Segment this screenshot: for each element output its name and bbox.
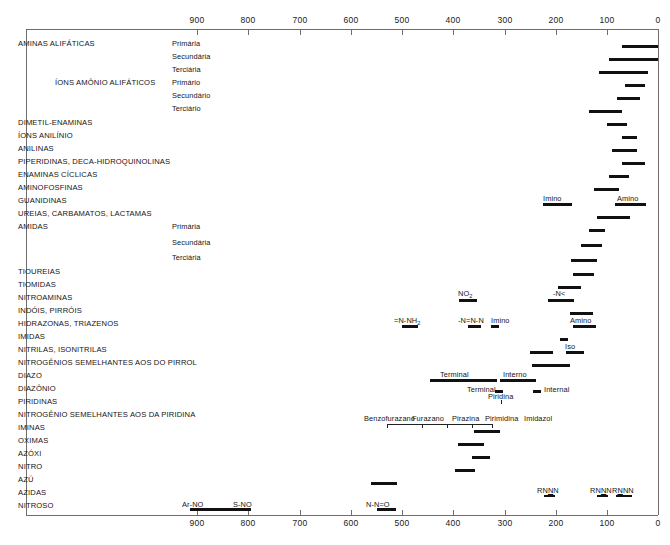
row-label-diazonio: DIAZÔNIO — [18, 384, 56, 393]
row-label-aminas-alifaticas: AMINAS ALIFÁTICAS — [18, 39, 95, 48]
row-label-nitrilas-isonitrilas: NITRILAS, ISONITRILAS — [18, 345, 107, 354]
bottom-axis-label-100: 100 — [587, 518, 627, 528]
annot-furazano: Furazano — [412, 414, 444, 423]
top-axis-label-100: 100 — [587, 15, 627, 25]
piridina-like-bracket — [387, 424, 493, 428]
row-label-iminas: IMINAS — [18, 423, 45, 432]
row-label-guanidinas: GUANIDINAS — [18, 196, 67, 205]
bottom-axis-label-600: 600 — [331, 518, 371, 528]
bar-dimetil-enaminas — [607, 123, 627, 126]
sub-label-amonio-terciario: Terciário — [172, 104, 201, 113]
bottom-axis-label-0: 0 — [638, 518, 670, 528]
sub-label-amonio-secundario: Secundário — [172, 91, 210, 100]
row-label-nitro: NITRO — [18, 462, 42, 471]
bracket-tick-furazano — [422, 424, 423, 428]
row-label-ions-amonio-alifaticos: ÍONS AMÔNIO ALIFÁTICOS — [55, 78, 155, 87]
annot-diazonio-internal: Internal — [544, 385, 569, 394]
row-label-dimetil-enaminas: DIMETIL-ENAMINAS — [18, 118, 93, 127]
bar-amonio-terciario — [589, 110, 622, 113]
top-axis-label-300: 300 — [485, 15, 525, 25]
top-axis-tick-200 — [556, 30, 557, 35]
annot-guanidinas-imino: Imino — [543, 194, 562, 203]
annot-nitroaminas-no2: NO2 — [458, 289, 473, 299]
sub-label-amina-terciaria: Terciária — [172, 65, 201, 74]
annot-piridina: Piridina — [488, 392, 513, 401]
bottom-axis-label-700: 700 — [280, 518, 320, 528]
bottom-axis-tick-400 — [453, 510, 454, 515]
top-axis-label-700: 700 — [280, 15, 320, 25]
top-axis-label-800: 800 — [228, 15, 268, 25]
top-axis-label-900: 900 — [177, 15, 217, 25]
bar-diazo-interno — [500, 379, 536, 382]
sub-label-amina-primaria: Primária — [172, 39, 200, 48]
bar-azidas-2 — [597, 495, 608, 497]
top-axis-tick-600 — [351, 30, 352, 35]
bar-hidrazonas-imino — [491, 325, 499, 328]
top-axis-tick-400 — [453, 30, 454, 35]
annot-hidrazonas-imino: Imino — [491, 316, 510, 325]
bar-iminas — [474, 430, 500, 433]
bottom-axis-tick-600 — [351, 510, 352, 515]
bar-nitro — [455, 469, 475, 472]
bottom-axis-tick-200 — [556, 510, 557, 515]
bar-amida-secundaria — [581, 244, 602, 247]
annot-nitroso-ar-no: Ar-NO — [182, 500, 203, 509]
bottom-axis-label-800: 800 — [228, 518, 268, 528]
bottom-axis-tick-500 — [402, 510, 403, 515]
bottom-axis-label-900: 900 — [177, 518, 217, 528]
annot-azidas-3: RNNN — [612, 486, 634, 495]
bar-enaminas-ciclicas — [609, 175, 629, 178]
sub-label-amida-primaria: Primária — [172, 222, 200, 231]
nitrogen-chemical-shift-chart: 900 800 700 600 500 400 300 200 100 0 90… — [0, 0, 670, 545]
bar-nitroaminas-namine — [548, 299, 574, 302]
bottom-axis-label-300: 300 — [485, 518, 525, 528]
annot-hidrazonas-nnh2: =N-NH2 — [394, 316, 421, 326]
bottom-axis-line — [26, 515, 658, 516]
bracket-tick-pirazina — [447, 424, 448, 428]
annot-imidazol: Imidazol — [524, 414, 552, 423]
bar-oximas — [458, 443, 484, 446]
bar-hidrazonas-nnn — [468, 325, 481, 328]
bar-indois-pirrois — [570, 312, 593, 315]
bar-amida-primaria — [589, 229, 605, 232]
top-axis-line — [26, 29, 658, 30]
top-axis-label-0: 0 — [638, 15, 670, 25]
bar-ureias-carbamatos-lactamas — [597, 216, 630, 219]
row-label-piperidinas: PIPERIDINAS, DECA-HIDROQUINOLINAS — [18, 157, 170, 166]
annot-azidas-1: RNNN — [537, 486, 559, 495]
row-label-oximas: OXIMAS — [18, 436, 48, 445]
bar-nitrogenios-pirrol — [532, 364, 570, 367]
row-label-azidas: AZIDAS — [18, 488, 46, 497]
bar-azidas-3 — [616, 495, 632, 497]
annot-pirimidina: Pirimidina — [485, 414, 518, 423]
plot-frame-right — [658, 29, 659, 515]
bar-imidas — [560, 338, 568, 341]
bar-azu — [371, 482, 397, 485]
bar-aminofosfinas — [594, 188, 619, 191]
top-axis-tick-700 — [300, 30, 301, 35]
row-label-nitroaminas: NITROAMINAS — [18, 293, 72, 302]
bar-piperidinas — [622, 162, 645, 165]
top-axis-label-200: 200 — [536, 15, 576, 25]
sub-label-amida-terciaria: Terciária — [172, 253, 201, 262]
top-axis-tick-900 — [197, 30, 198, 35]
bar-diazo-terminal — [430, 379, 497, 382]
bar-guanidinas-amino — [615, 203, 646, 206]
annot-isonitrilas-iso: Iso — [565, 342, 575, 351]
annot-azidas-2: RNNN — [590, 486, 612, 495]
top-axis-tick-800 — [248, 30, 249, 35]
top-axis-label-600: 600 — [331, 15, 371, 25]
bottom-axis-tick-300 — [505, 510, 506, 515]
annot-nitroso-n-n-o: N-N=O — [366, 500, 390, 509]
row-label-diazo: DIAZO — [18, 371, 42, 380]
row-label-nitrogenios-pirrol: NITROGÊNIOS SEMELHANTES AOS DO PIRROL — [18, 358, 197, 367]
bottom-axis-tick-100 — [607, 510, 608, 515]
bottom-axis-label-200: 200 — [536, 518, 576, 528]
row-label-nitroso: NITROSO — [18, 501, 54, 510]
row-label-hidrazonas-triazenos: HIDRAZONAS, TRIAZENOS — [18, 319, 118, 328]
row-label-ions-anilinio: ÍONS ANILÍNIO — [18, 131, 73, 140]
bracket-tick-pirimidina — [472, 424, 473, 428]
bar-guanidinas-imino — [543, 203, 572, 206]
annot-diazo-interno: Interno — [503, 370, 527, 379]
bar-amonio-secundario — [617, 97, 640, 100]
